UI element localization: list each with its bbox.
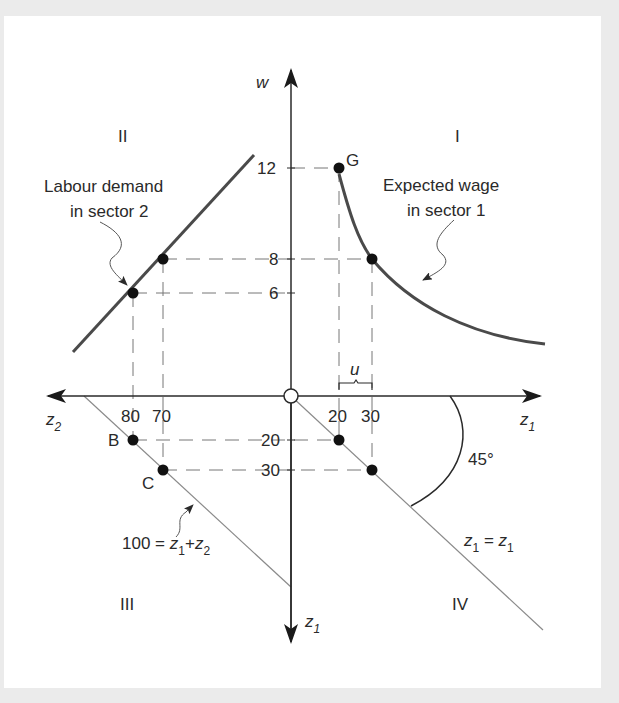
identity-45-line bbox=[291, 396, 543, 630]
point-demand-w8 bbox=[158, 254, 169, 265]
label-B: B bbox=[108, 431, 119, 450]
axis-label-z1-right: z1 bbox=[519, 410, 535, 434]
label-G: G bbox=[346, 151, 359, 170]
four-quadrant-diagram: I II III IV w z1 z1 z2 12 8 6 20 30 80 7… bbox=[0, 0, 619, 703]
point-identity-30 bbox=[367, 465, 378, 476]
point-G bbox=[334, 163, 345, 174]
labour-demand-pointer bbox=[100, 222, 127, 285]
tick-w-8: 8 bbox=[269, 250, 278, 269]
tick-z1-20: 20 bbox=[328, 407, 347, 426]
tick-z1-30: 30 bbox=[361, 407, 380, 426]
point-curve-w8 bbox=[367, 254, 378, 265]
expected-wage-label-1: Expected wage bbox=[383, 176, 499, 195]
tick-z2-80: 80 bbox=[121, 407, 140, 426]
expected-wage-pointer bbox=[423, 220, 454, 280]
identity-label: z1 = z1 bbox=[463, 531, 514, 555]
origin-marker bbox=[284, 389, 298, 403]
tick-z1down-20: 20 bbox=[261, 431, 280, 450]
tick-z2-70: 70 bbox=[152, 407, 171, 426]
label-C: C bbox=[142, 474, 154, 493]
unemployment-brace bbox=[339, 380, 372, 390]
labour-demand-label-2: in sector 2 bbox=[70, 202, 148, 221]
quadrant-label-II: II bbox=[118, 127, 127, 146]
constraint-label: 100 = z1+z2 bbox=[122, 534, 210, 558]
point-B bbox=[128, 435, 139, 446]
constraint-line bbox=[84, 396, 291, 587]
labour-demand-label-1: Labour demand bbox=[44, 177, 163, 196]
point-demand-w6 bbox=[128, 288, 139, 299]
expected-wage-label-2: in sector 1 bbox=[407, 201, 485, 220]
angle-label: 45° bbox=[468, 450, 494, 469]
point-C bbox=[158, 465, 169, 476]
axis-label-z1-down: z1 bbox=[304, 612, 320, 636]
quadrant-label-III: III bbox=[120, 595, 134, 614]
point-identity-20 bbox=[334, 435, 345, 446]
data-points bbox=[128, 163, 378, 476]
tick-w-12: 12 bbox=[257, 159, 276, 178]
axis-label-w: w bbox=[256, 73, 270, 92]
constraint-pointer bbox=[176, 505, 193, 537]
tick-z1down-30: 30 bbox=[261, 461, 280, 480]
unemployment-label: u bbox=[350, 360, 360, 379]
axis-label-z2-left: z2 bbox=[45, 410, 62, 434]
tick-w-6: 6 bbox=[269, 284, 278, 303]
angle-arc bbox=[411, 396, 463, 506]
quadrant-label-IV: IV bbox=[452, 595, 469, 614]
quadrant-label-I: I bbox=[455, 127, 460, 146]
